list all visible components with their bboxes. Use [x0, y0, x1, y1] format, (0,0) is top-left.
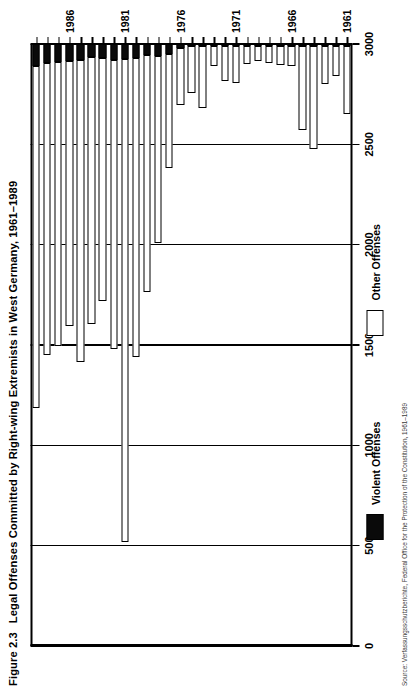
bar-1963 [321, 44, 328, 84]
category-tick-1969 [258, 37, 260, 44]
bar-segment-other-1962 [332, 46, 339, 76]
legend-item-other-offenses: Other Offenses [366, 224, 383, 336]
bar-segment-violent-1977 [165, 44, 172, 54]
bar-1971 [232, 44, 239, 83]
category-tick-1983 [102, 37, 104, 44]
bar-segment-violent-1984 [87, 44, 94, 57]
category-axis-label-1971: 1971 [229, 10, 241, 33]
bar-segment-other-1975 [187, 46, 194, 92]
bar-1982 [110, 44, 117, 349]
bar-segment-violent-1983 [98, 44, 105, 58]
category-axis-label-1986: 1986 [63, 10, 75, 33]
category-tick-1976 [180, 37, 182, 44]
bar-1979 [143, 44, 150, 292]
bar-1975 [187, 44, 194, 93]
category-tick-1971 [235, 37, 237, 44]
legend-swatch-other-offenses [366, 310, 383, 336]
bar-segment-other-1966 [287, 46, 294, 65]
bar-segment-violent-1982 [110, 44, 117, 60]
bar-segment-violent-1964 [309, 44, 316, 46]
bar-1989 [32, 44, 39, 408]
bar-segment-violent-1976 [176, 44, 183, 48]
bar-1983 [98, 44, 105, 301]
bar-segment-violent-1961 [343, 44, 350, 46]
bar-segment-violent-1973 [210, 44, 217, 46]
category-tick-1982 [113, 37, 115, 44]
bar-segment-violent-1986 [65, 44, 72, 61]
bar-segment-violent-1967 [276, 44, 283, 46]
category-tick-1967 [280, 37, 282, 44]
category-axis-label-1976: 1976 [174, 10, 186, 33]
bar-segment-other-1973 [210, 46, 217, 66]
bar-1985 [76, 44, 83, 362]
legend-label-other-offenses: Other Offenses [369, 224, 381, 301]
bar-segment-other-1974 [198, 46, 205, 108]
value-tick-2000 [352, 244, 359, 245]
bar-segment-violent-1979 [143, 44, 150, 55]
figure-number: Figure 2.3 [6, 632, 18, 686]
bar-1973 [210, 44, 217, 66]
bar-1984 [87, 44, 94, 324]
category-tick-1984 [91, 37, 93, 44]
bar-1970 [243, 44, 250, 64]
bar-1986 [65, 44, 72, 326]
bar-segment-other-1961 [343, 46, 350, 114]
bar-segment-other-1967 [276, 46, 283, 64]
bar-segment-other-1964 [309, 46, 316, 148]
figure-page: Figure 2.3Legal Offenses Committed by Ri… [0, 0, 413, 690]
value-axis-label-2500: 2500 [362, 132, 374, 156]
bar-segment-other-1972 [221, 46, 228, 81]
bar-1969 [254, 44, 261, 61]
figure-source-note: Source: Verfassungsschutzberichte, Feder… [400, 403, 407, 686]
bar-segment-violent-1988 [43, 44, 50, 63]
category-tick-1972 [224, 37, 226, 44]
bar-segment-violent-1971 [232, 44, 239, 46]
bar-1965 [298, 44, 305, 130]
category-tick-1986 [69, 37, 71, 44]
category-tick-1962 [335, 37, 337, 44]
bar-segment-violent-1965 [298, 44, 305, 46]
value-tick-1000 [352, 445, 359, 446]
bar-1981 [121, 44, 128, 542]
bar-1966 [287, 44, 294, 66]
bar-segment-other-1983 [98, 58, 105, 301]
bar-segment-other-1977 [165, 54, 172, 168]
category-tick-1965 [302, 37, 304, 44]
category-tick-1975 [191, 37, 193, 44]
bar-segment-violent-1985 [76, 44, 83, 60]
bar-1980 [132, 44, 139, 357]
rotated-figure-stage: Figure 2.3Legal Offenses Committed by Ri… [0, 0, 413, 690]
category-tick-1977 [169, 37, 171, 44]
bar-segment-other-1970 [243, 46, 250, 64]
bar-segment-violent-1989 [32, 44, 39, 66]
category-tick-1988 [47, 37, 49, 44]
bar-1968 [265, 44, 272, 63]
bar-1964 [309, 44, 316, 149]
category-tick-1981 [124, 37, 126, 44]
bar-segment-violent-1987 [54, 44, 61, 62]
category-tick-1979 [147, 37, 149, 44]
bar-segment-violent-1972 [221, 44, 228, 46]
bar-1978 [154, 44, 161, 243]
bar-segment-violent-1969 [254, 44, 261, 46]
category-tick-1974 [202, 37, 204, 44]
bar-segment-other-1980 [132, 58, 139, 357]
value-tick-3000 [352, 43, 359, 44]
bar-1988 [43, 44, 50, 355]
bar-segment-other-1963 [321, 46, 328, 84]
category-tick-1980 [135, 37, 137, 44]
bar-1974 [198, 44, 205, 108]
category-tick-1970 [247, 37, 249, 44]
bar-segment-violent-1966 [287, 44, 294, 46]
category-tick-1961 [346, 37, 348, 44]
gridline-0 [30, 645, 352, 646]
category-tick-1973 [213, 37, 215, 44]
gridline-1000 [30, 445, 352, 446]
gridline-500 [30, 545, 352, 546]
bar-segment-other-1986 [65, 61, 72, 326]
category-tick-1989 [36, 37, 38, 44]
bar-segment-other-1968 [265, 46, 272, 62]
chart-legend: Violent OffensesOther Offenses [366, 224, 383, 540]
category-tick-1968 [269, 37, 271, 44]
category-tick-1987 [58, 37, 60, 44]
